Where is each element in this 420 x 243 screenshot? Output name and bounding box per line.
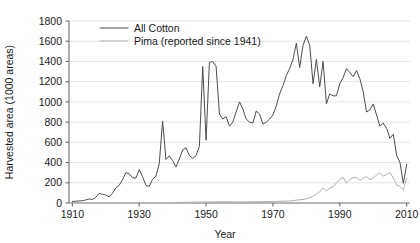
x-tick-label: 1990 [328,208,352,220]
x-tick-label: 1970 [261,208,285,220]
x-tick-label: 1910 [61,208,85,220]
legend-label-pima: Pima (reported since 1941) [134,35,261,47]
y-tick-label: 600 [44,136,62,148]
x-tick-labels-group: 191019301950197019902010 [61,208,419,220]
legend: All Cotton Pima (reported since 1941) [100,22,261,47]
y-tick-labels-group: 020040060080010001200140016001800 [39,15,63,209]
y-tick-label: 1800 [39,15,63,27]
x-tick-label: 1930 [128,208,152,220]
x-tick-label: 1950 [194,208,218,220]
series-line-all [72,36,406,201]
y-tick-label: 1000 [39,96,63,108]
x-tick-label: 2010 [395,208,419,220]
y-tick-label: 400 [44,156,62,168]
y-tick-label: 1600 [39,35,63,47]
chart-figure: 020040060080010001200140016001800 191019… [0,0,420,243]
legend-label-all-cotton: All Cotton [134,22,180,34]
series-line-pima [176,173,407,203]
y-tick-label: 1400 [39,55,63,67]
y-tick-label: 1200 [39,75,63,87]
line-chart: 020040060080010001200140016001800 191019… [0,0,420,243]
y-tick-label: 0 [56,197,62,209]
y-tick-label: 800 [44,116,62,128]
x-axis-title: Year [214,228,236,240]
y-tick-label: 200 [44,176,62,188]
y-axis-title: Harvested area (1000 areas) [3,45,15,179]
